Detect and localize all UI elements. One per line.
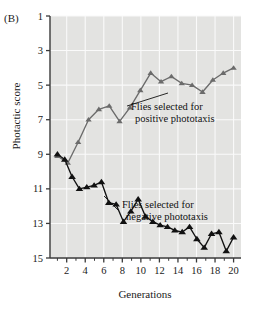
y-tick-label: 1 [38, 11, 43, 22]
x-tick-label: 12 [154, 265, 165, 276]
annotation-text-line2: positive phototaxis [135, 113, 215, 124]
x-tick-label: 4 [83, 265, 89, 276]
y-tick-label: 11 [33, 183, 43, 194]
x-tick-labels: 2468101214161820 [64, 265, 239, 276]
x-tick-label: 2 [64, 265, 69, 276]
x-tick-label: 10 [136, 265, 147, 276]
y-tick-label: 13 [33, 218, 44, 229]
figure-panel-b: (B) Photactic score Generations 13579111… [0, 0, 253, 310]
x-tick-label: 6 [101, 265, 106, 276]
x-tick-label: 14 [173, 265, 184, 276]
annotation-text-line2: negative phototaxis [126, 211, 208, 222]
y-axis-title: Photactic score [10, 56, 22, 176]
annotation-text-line1: Flies selected for [122, 199, 194, 210]
y-tick-label: 3 [38, 45, 43, 56]
y-tick-label: 9 [38, 149, 43, 160]
chart-canvas: 13579111315 2468101214161820 Flies selec… [0, 0, 253, 310]
y-tick-label: 7 [38, 114, 43, 125]
x-axis-title: Generations [50, 288, 240, 300]
y-tick-label: 5 [38, 80, 43, 91]
x-tick-label: 20 [228, 265, 239, 276]
x-tick-label: 16 [191, 265, 202, 276]
y-tick-labels: 13579111315 [33, 11, 44, 264]
panel-label: (B) [4, 12, 19, 24]
annotation-text-line1: Flies selected for [131, 101, 203, 112]
y-tick-label: 15 [33, 253, 44, 264]
x-tick-label: 18 [210, 265, 221, 276]
x-tick-label: 8 [120, 265, 125, 276]
